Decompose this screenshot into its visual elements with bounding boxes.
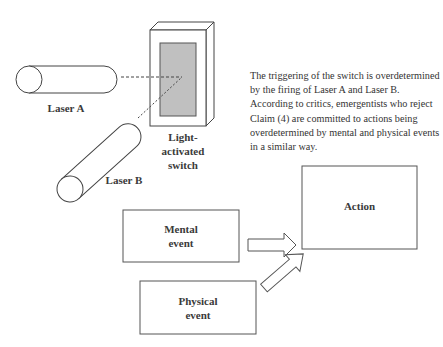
switch-label: Light- activated switch xyxy=(150,130,216,172)
switch-label-line3: switch xyxy=(150,158,216,172)
arrow-right-icon xyxy=(248,233,296,257)
mental-event-label: Mental event xyxy=(123,222,239,250)
switch-label-line1: Light- xyxy=(150,130,216,144)
figure-caption: The triggering of the switch is overdete… xyxy=(250,69,440,154)
laser-a-icon xyxy=(16,66,117,93)
mental-event-line2: event xyxy=(123,236,239,250)
physical-event-line1: Physical xyxy=(140,294,256,308)
mental-event-line1: Mental xyxy=(123,222,239,236)
physical-event-label: Physical event xyxy=(140,294,256,322)
laser-a-label: Laser A xyxy=(36,102,96,115)
physical-event-line2: event xyxy=(140,308,256,322)
switch-label-line2: activated xyxy=(150,144,216,158)
light-activated-switch-icon xyxy=(150,22,214,126)
laser-b-icon xyxy=(52,118,147,207)
laser-b-label: Laser B xyxy=(94,174,154,187)
action-label: Action xyxy=(302,200,417,213)
